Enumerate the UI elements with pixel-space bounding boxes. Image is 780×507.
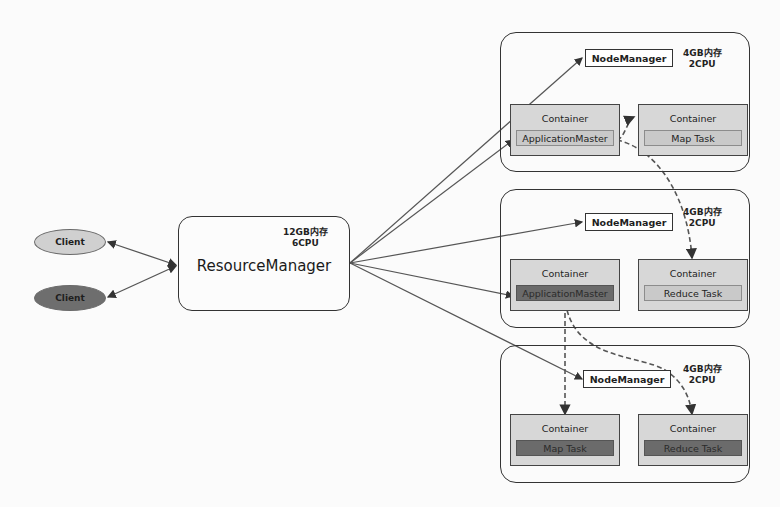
client-2-label: Client [55,293,85,303]
node-3-resources: 4GB内存 2CPU [683,364,722,386]
rm-title: ResourceManager [179,257,349,275]
node-1-container-2: Container Map Task [638,104,748,156]
node-3-container-2: Container Reduce Task [638,414,748,466]
node-2-memory: 4GB内存 [683,207,722,218]
resource-manager: 12GB内存 6CPU ResourceManager [178,216,350,311]
client2-rm-link [108,266,176,297]
client1-rm-link [108,242,176,265]
rm-memory: 12GB内存 [283,227,328,238]
node-2-container-1: Container ApplicationMaster [510,259,620,311]
node-1-container-1: Container ApplicationMaster [510,104,620,156]
map-task: Map Task [516,440,614,456]
node-1-resources: 4GB内存 2CPU [683,48,722,70]
node-1-nodemanager: NodeManager [585,49,673,67]
rm-am1-link [350,140,513,263]
container-title: Container [511,423,619,434]
reduce-task: Reduce Task [644,285,742,301]
application-master-task: ApplicationMaster [516,285,614,301]
node-3-container-1: Container Map Task [510,414,620,466]
node-3-nodemanager: NodeManager [583,370,671,388]
container-title: Container [511,113,619,124]
container-title: Container [639,113,747,124]
client-2: Client [34,285,106,311]
node-2-cpu: 2CPU [683,218,722,229]
container-title: Container [639,423,747,434]
rm-am2-link [350,263,513,296]
map-task: Map Task [644,130,742,146]
node-2-resources: 4GB内存 2CPU [683,207,722,229]
node-1-memory: 4GB内存 [683,48,722,59]
node-3-memory: 4GB内存 [683,364,722,375]
application-master-task: ApplicationMaster [516,130,614,146]
node-2-container-2: Container Reduce Task [638,259,748,311]
container-title: Container [511,268,619,279]
reduce-task: Reduce Task [644,440,742,456]
container-title: Container [639,268,747,279]
client-1-label: Client [55,237,85,247]
client-1: Client [34,229,106,255]
rm-resources: 12GB内存 6CPU [283,227,328,249]
node-3-cpu: 2CPU [683,375,722,386]
rm-cpu: 6CPU [283,238,328,249]
node-2-nodemanager: NodeManager [585,213,673,231]
node-1-cpu: 2CPU [683,59,722,70]
